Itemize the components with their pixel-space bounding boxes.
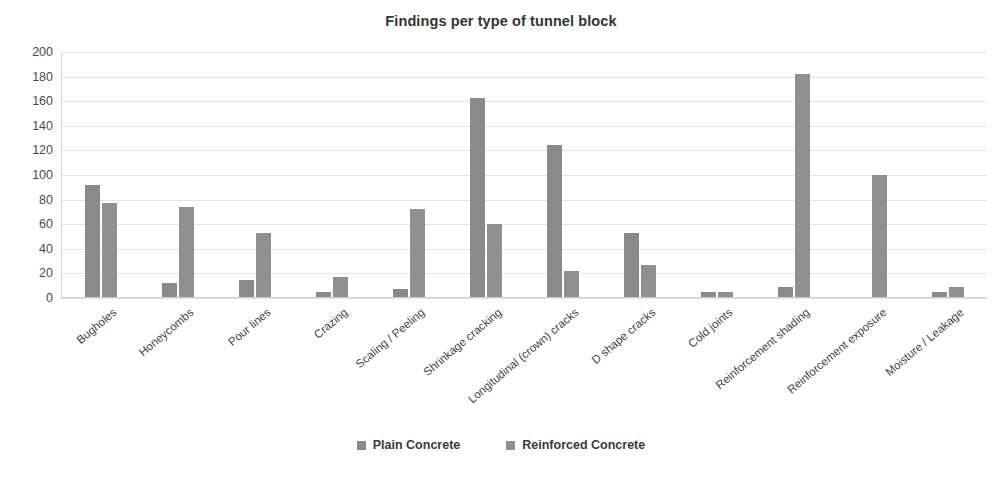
bar[interactable] xyxy=(795,74,810,298)
x-tick-label-wrap: Scaling / Peeling xyxy=(353,306,426,370)
bar-group xyxy=(216,52,293,298)
legend-label: Reinforced Concrete xyxy=(522,438,645,452)
x-axis-category-labels: BugholesHoneycombsPour linesCrazingScali… xyxy=(62,302,987,412)
x-tick-label: Scaling / Peeling xyxy=(353,306,426,370)
y-tick-label: 40 xyxy=(7,243,53,256)
bar[interactable] xyxy=(102,203,117,298)
bar[interactable] xyxy=(239,280,254,298)
y-tick-label: 0 xyxy=(7,292,53,305)
y-tick-label: 160 xyxy=(7,95,53,108)
bar-group xyxy=(756,52,833,298)
bar[interactable] xyxy=(333,277,348,298)
bar-group xyxy=(62,52,139,298)
x-tick-label: Pour lines xyxy=(226,306,273,348)
x-tick-label-wrap: Bugholes xyxy=(74,306,118,346)
bar-group xyxy=(833,52,910,298)
chart-title: Findings per type of tunnel block xyxy=(0,13,1002,29)
bar-group xyxy=(910,52,987,298)
plot-area xyxy=(62,52,987,298)
bar-group xyxy=(447,52,524,298)
bar-group xyxy=(139,52,216,298)
x-tick-label-wrap: Pour lines xyxy=(226,306,273,348)
x-tick-label-wrap: Shrinkage cracking xyxy=(421,306,504,378)
bar[interactable] xyxy=(179,207,194,298)
bar-group xyxy=(370,52,447,298)
x-tick-label: Crazing xyxy=(311,306,349,341)
bar[interactable] xyxy=(470,98,485,298)
x-tick-label: Cold joints xyxy=(686,306,735,350)
x-tick-label-wrap: D shape cracks xyxy=(589,306,657,366)
y-tick-label: 80 xyxy=(7,193,53,206)
legend-swatch-icon xyxy=(357,441,366,450)
legend-label: Plain Concrete xyxy=(373,438,461,452)
x-axis-line xyxy=(62,297,987,298)
x-tick-label-wrap: Honeycombs xyxy=(136,306,195,358)
bar-group xyxy=(525,52,602,298)
bar-group xyxy=(602,52,679,298)
bar-group xyxy=(293,52,370,298)
bar[interactable] xyxy=(547,145,562,298)
x-tick-label: Honeycombs xyxy=(136,306,195,358)
y-tick-label: 140 xyxy=(7,120,53,133)
bar-group xyxy=(679,52,756,298)
y-axis-tick-labels: 200180160140120100806040200 xyxy=(0,52,53,298)
bar[interactable] xyxy=(256,233,271,298)
x-tick-label-wrap: Moisture / Leakage xyxy=(884,306,967,378)
x-tick-label: Moisture / Leakage xyxy=(884,306,967,378)
y-tick-label: 200 xyxy=(7,46,53,59)
legend-item[interactable]: Reinforced Concrete xyxy=(506,438,645,452)
x-tick-label: Shrinkage cracking xyxy=(421,306,504,378)
legend-swatch-icon xyxy=(506,441,515,450)
bar[interactable] xyxy=(487,224,502,298)
y-tick-label: 100 xyxy=(7,169,53,182)
bar-chart: Findings per type of tunnel block 200180… xyxy=(0,0,1002,480)
y-tick-label: 120 xyxy=(7,144,53,157)
bar[interactable] xyxy=(410,209,425,298)
bar[interactable] xyxy=(162,283,177,298)
bar[interactable] xyxy=(624,233,639,298)
bar[interactable] xyxy=(564,271,579,298)
bar[interactable] xyxy=(872,175,887,298)
y-tick-label: 60 xyxy=(7,218,53,231)
bar[interactable] xyxy=(641,265,656,298)
x-tick-label-wrap: Cold joints xyxy=(686,306,735,350)
y-tick-label: 20 xyxy=(7,267,53,280)
x-tick-label: D shape cracks xyxy=(589,306,657,366)
bar[interactable] xyxy=(85,185,100,298)
gridline xyxy=(62,298,987,299)
x-tick-label-wrap: Crazing xyxy=(311,306,349,341)
x-tick-label: Bugholes xyxy=(74,306,118,346)
legend-item[interactable]: Plain Concrete xyxy=(357,438,461,452)
chart-legend: Plain ConcreteReinforced Concrete xyxy=(0,438,1002,452)
y-tick-label: 180 xyxy=(7,70,53,83)
